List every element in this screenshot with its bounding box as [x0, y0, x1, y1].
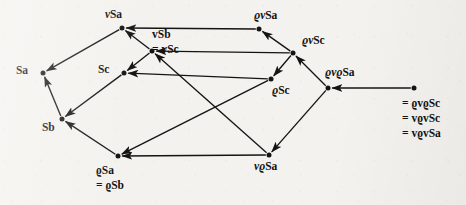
- graph-node-dot[interactable]: [120, 26, 125, 31]
- alias-line: ϱSa: [96, 163, 124, 178]
- graph-edge: [274, 55, 291, 75]
- graph-edge: [45, 77, 61, 116]
- alias-line: = vϱvSa: [402, 126, 441, 141]
- graph-edge: [272, 90, 326, 151]
- node-label: ϱvSa: [254, 9, 277, 21]
- graph-node-dot[interactable]: [116, 154, 121, 159]
- node-label: Sb: [42, 121, 55, 133]
- alias-line: vSb: [152, 27, 179, 42]
- alias-line: = ϱSb: [96, 178, 124, 193]
- graph-node-dot[interactable]: [267, 153, 272, 158]
- node-label: Sc: [98, 63, 109, 75]
- graph-edge: [155, 54, 266, 153]
- graph-node-dot[interactable]: [257, 27, 262, 32]
- graph-node-dot[interactable]: [60, 117, 65, 122]
- graph-edge: [126, 28, 256, 29]
- alias-line: = vϱvSc: [402, 111, 441, 126]
- graph-node-dot[interactable]: [326, 86, 331, 91]
- alias-line: = vSc: [152, 42, 179, 57]
- graph-edge: [296, 56, 326, 86]
- graph-edge: [122, 155, 266, 156]
- node-label: vϱSa: [254, 160, 277, 172]
- graph-canvas: [0, 0, 466, 205]
- graph-node-dot[interactable]: [412, 86, 417, 91]
- node-alias-stack: vSb= vSc: [152, 27, 179, 57]
- edge-layer: [45, 28, 411, 156]
- node-alias-stack: ϱSa= ϱSb: [96, 163, 124, 193]
- graph-edge: [128, 73, 268, 79]
- graph-edge: [125, 31, 149, 49]
- node-layer: [41, 26, 417, 159]
- node-label: Sa: [16, 64, 28, 76]
- node-label: ϱSc: [272, 84, 290, 96]
- graph-edge: [262, 31, 290, 51]
- graph-node-dot[interactable]: [122, 71, 127, 76]
- node-label: ϱvϱSa: [325, 66, 354, 78]
- graph-edge: [65, 75, 121, 117]
- graph-node-dot[interactable]: [41, 71, 46, 76]
- node-alias-stack: = ϱvϱSc= vϱvSc= vϱvSa: [402, 96, 441, 142]
- node-label: vSa: [105, 8, 122, 20]
- graph-node-dot[interactable]: [269, 77, 274, 82]
- graph-edge: [66, 121, 116, 154]
- node-label: ϱvSc: [302, 34, 325, 46]
- alias-line: = ϱvϱSc: [402, 96, 441, 111]
- graph-edge: [127, 53, 149, 70]
- diagram-root: vSaSaScSbϱvSaϱvScϱScϱvϱSavϱSavSb= vScϱSa…: [0, 0, 466, 205]
- graph-node-dot[interactable]: [291, 51, 296, 56]
- graph-edge: [122, 80, 268, 154]
